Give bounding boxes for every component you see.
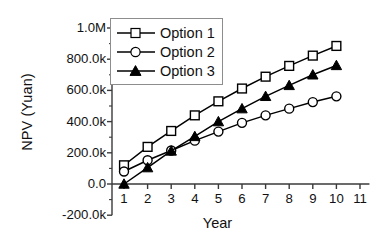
legend-label-option-3: Option 3 [160,63,215,79]
legend-label-option-2: Option 2 [160,44,215,60]
data-point [331,60,341,69]
data-point [332,42,341,51]
data-point [238,118,247,127]
data-point [190,131,200,140]
data-point [332,92,341,101]
data-point [308,70,318,79]
data-point [308,51,317,60]
legend-label-option-1: Option 1 [160,25,215,41]
data-point [284,80,294,89]
legend-item: Option 3 [116,61,215,80]
data-point [167,127,176,136]
legend-key-option-3 [116,63,156,79]
data-point [214,127,223,136]
chart-container: NPV (Yuan) Year -200.0k0.0200.0k400.0k60… [0,0,385,244]
legend-key-option-2 [116,44,156,60]
data-point [260,91,270,100]
legend-key-option-1 [116,25,156,41]
legend: Option 1 Option 2 Option 3 [110,18,223,85]
legend-item: Option 1 [116,23,215,42]
data-point [261,72,270,81]
data-point [261,111,270,120]
data-point [238,84,247,93]
data-point [213,116,223,125]
data-point [190,111,199,120]
data-point [214,97,223,106]
legend-item: Option 2 [116,42,215,61]
data-point [237,103,247,112]
data-point [285,104,294,113]
data-point [285,62,294,71]
data-point [143,142,152,151]
data-point [120,167,129,176]
data-point [308,98,317,107]
